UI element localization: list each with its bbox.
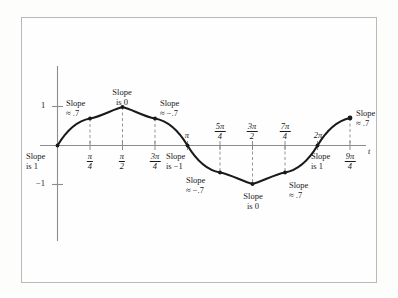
x-tick-label-5pi4: 5π 4 (215, 122, 226, 140)
annotation-slope-at-3pi2: Slope is 0 (243, 192, 262, 211)
point-pi4 (88, 117, 92, 121)
pi4-numerator: π (87, 152, 93, 161)
point-7pi4 (283, 171, 287, 175)
figure-canvas: 1 −1 t π 4 π 2 3π 4 π 5π 4 3π 2 (0, 0, 398, 298)
pi32-denominator: 2 (247, 131, 258, 141)
pi34-denominator: 4 (150, 161, 161, 171)
annotation-slope-at-0: Slope is 1 (26, 152, 45, 171)
annotation-slope-at-9pi4: Slope ≈ .7 (356, 109, 375, 128)
x-tick-label-pi: π (185, 131, 189, 141)
annotation-slope-at-3pi2-line2: is 0 (247, 201, 259, 211)
x-tick-label-pi4: π 4 (87, 152, 93, 170)
annotation-slope-at-pi-line2: is −1 (166, 161, 183, 171)
annotation-slope-at-pi4-line2: ≈ .7 (66, 108, 79, 118)
annotation-slope-at-0-line2: is 1 (26, 161, 38, 171)
annotation-slope-at-0-line1: Slope (26, 151, 45, 161)
x-tick-label-3pi4: 3π 4 (150, 152, 161, 170)
annotation-slope-at-pi: Slope is −1 (166, 152, 185, 171)
annotation-slope-at-5pi4-line2: ≈ −.7 (186, 185, 204, 195)
annotation-slope-at-5pi4-line1: Slope (186, 175, 205, 185)
point-origin (56, 144, 60, 148)
annotation-slope-at-2pi-line2: is 1 (311, 161, 323, 171)
point-3pi4 (153, 117, 157, 121)
annotation-slope-at-pi4-line1: Slope (66, 98, 85, 108)
point-9pi4 (348, 116, 353, 121)
annotation-slope-at-2pi: Slope is 1 (311, 152, 330, 171)
x-tick-label-2pi: 2π (314, 131, 323, 141)
annotation-slope-at-pi4: Slope ≈ .7 (66, 99, 85, 118)
x-tick-label-3pi2: 3π 2 (247, 122, 258, 140)
annotation-slope-at-3pi2-line1: Slope (243, 191, 262, 201)
annotation-slope-at-3pi4-line2: ≈ −.7 (160, 108, 178, 118)
annotation-slope-at-pi2: Slope is 0 (112, 88, 131, 107)
annotation-slope-at-pi2-line2: is 0 (116, 97, 128, 107)
point-pi (186, 144, 190, 148)
pi94-denominator: 4 (345, 161, 356, 171)
x-axis-label: t (368, 147, 370, 157)
annotation-slope-at-7pi4-line1: Slope (289, 180, 308, 190)
annotation-slope-at-9pi4-line1: Slope (356, 108, 375, 118)
pi34-numerator: 3π (150, 152, 161, 161)
annotation-slope-at-5pi4: Slope ≈ −.7 (186, 176, 205, 195)
pi2-numerator: π (119, 152, 125, 161)
pi54-denominator: 4 (215, 131, 226, 141)
x-tick-label-9pi4: 9π 4 (345, 152, 356, 170)
pi2-denominator: 2 (119, 161, 125, 171)
annotation-slope-at-7pi4: Slope ≈ .7 (289, 181, 308, 200)
pi4-denominator: 4 (87, 161, 93, 171)
annotation-slope-at-7pi4-line2: ≈ .7 (289, 190, 302, 200)
pi94-numerator: 9π (345, 152, 356, 161)
annotation-slope-at-9pi4-line2: ≈ .7 (356, 118, 369, 128)
pi54-numerator: 5π (215, 122, 226, 131)
y-tick-label-one: 1 (41, 101, 45, 111)
annotation-slope-at-3pi4-line1: Slope (160, 98, 179, 108)
pi74-denominator: 4 (280, 131, 291, 141)
point-5pi4 (218, 171, 222, 175)
point-3pi2 (251, 182, 255, 186)
annotation-slope-at-pi2-line1: Slope (112, 87, 131, 97)
sine-curve-plot (0, 0, 398, 298)
x-tick-label-pi2: π 2 (119, 152, 125, 170)
annotation-slope-at-3pi4: Slope ≈ −.7 (160, 99, 179, 118)
point-2pi (316, 144, 320, 148)
annotation-slope-at-2pi-line1: Slope (311, 151, 330, 161)
pi32-numerator: 3π (247, 122, 258, 131)
y-tick-label-neg-one: −1 (36, 179, 45, 189)
x-tick-label-7pi4: 7π 4 (280, 122, 291, 140)
annotation-slope-at-pi-line1: Slope (166, 151, 185, 161)
pi74-numerator: 7π (280, 122, 291, 131)
